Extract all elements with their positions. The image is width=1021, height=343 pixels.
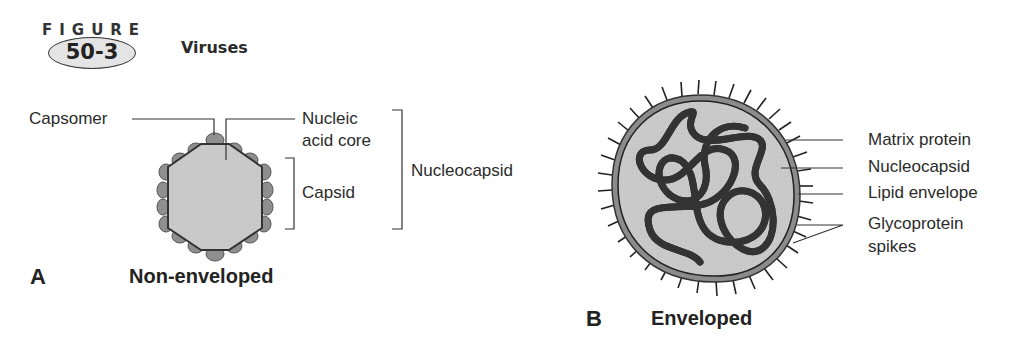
label-glycoprotein-line2: spikes <box>868 236 916 258</box>
label-nucleic-acid-core-line1: Nucleic <box>302 108 358 130</box>
label-nucleocapsid-a: Nucleocapsid <box>411 160 513 182</box>
panel-b-letter: B <box>586 306 602 332</box>
enveloped-virion <box>598 80 813 296</box>
panel-a-letter: A <box>30 264 46 290</box>
panel-b-title: Enveloped <box>651 307 752 330</box>
non-enveloped-virion <box>157 133 273 261</box>
panel-a-title: Non-enveloped <box>129 265 273 288</box>
label-nucleocapsid-b: Nucleocapsid <box>868 156 970 178</box>
label-capsid: Capsid <box>302 182 355 204</box>
label-nucleic-acid-core-line2: acid core <box>302 130 371 152</box>
label-capsomer: Capsomer <box>29 108 107 130</box>
label-glycoprotein-line1: Glycoprotein <box>868 213 963 235</box>
label-matrix-protein: Matrix protein <box>868 129 971 151</box>
label-lipid-envelope: Lipid envelope <box>868 182 978 204</box>
